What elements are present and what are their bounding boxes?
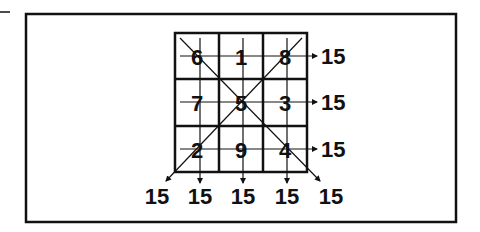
cell-r3c3: 4 <box>279 138 292 163</box>
diag-sum-left: 15 <box>145 184 169 209</box>
cell-r1c2: 1 <box>235 45 247 70</box>
row-sum-2: 15 <box>321 90 345 115</box>
col-sum-3: 15 <box>275 184 299 209</box>
magic-square-diagram: 6 1 8 7 5 3 2 9 4 15 15 15 15 15 15 15 1… <box>0 0 480 232</box>
row-sum-3: 15 <box>321 137 345 162</box>
diag-sum-right: 15 <box>319 184 343 209</box>
row-sums: 15 15 15 <box>321 44 345 162</box>
cell-r2c2: 5 <box>235 91 247 116</box>
cell-r2c1: 7 <box>191 91 203 116</box>
cell-r3c2: 9 <box>235 138 247 163</box>
cell-r3c1: 2 <box>191 138 203 163</box>
cell-r2c3: 3 <box>279 91 291 116</box>
cell-numbers: 6 1 8 7 5 3 2 9 4 <box>191 45 292 163</box>
cell-r1c1: 6 <box>191 45 203 70</box>
cell-r1c3: 8 <box>279 45 291 70</box>
bottom-sums: 15 15 15 15 15 <box>145 184 343 209</box>
row-sum-1: 15 <box>321 44 345 69</box>
col-sum-2: 15 <box>231 184 255 209</box>
col-sum-1: 15 <box>188 184 212 209</box>
